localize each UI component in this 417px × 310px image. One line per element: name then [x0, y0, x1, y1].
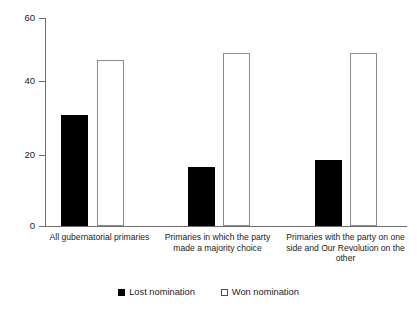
y-tick-label-40: 40 — [4, 76, 35, 86]
legend-label-lost: Lost nomination — [129, 287, 195, 298]
bar-won-group-3 — [350, 53, 377, 226]
bar-lost-group-2 — [188, 167, 215, 226]
x-axis-line — [45, 226, 407, 227]
bar-lost-group-3 — [315, 160, 342, 226]
bar-won-group-2 — [223, 53, 250, 226]
y-tick-label-60: 60 — [4, 13, 35, 23]
y-tick-label-20: 20 — [4, 150, 35, 160]
chart-legend: Lost nomination Won nomination — [0, 287, 417, 298]
open-square-marker-icon — [221, 289, 228, 296]
category-label-3: Primaries with the party on one side and… — [280, 232, 411, 264]
bar-lost-group-1 — [61, 115, 88, 226]
y-tick-label-0: 0 — [4, 221, 35, 231]
category-label-2: Primaries in which the party made a majo… — [155, 232, 280, 253]
bar-chart: 60 40 20 0 All gubernatorial primaries P… — [0, 0, 417, 310]
plot-area — [45, 18, 407, 226]
legend-entry-lost: Lost nomination — [118, 287, 195, 298]
legend-entry-won: Won nomination — [221, 287, 299, 298]
filled-square-marker-icon — [118, 289, 125, 296]
legend-label-won: Won nomination — [232, 287, 299, 298]
bar-won-group-1 — [97, 60, 124, 226]
